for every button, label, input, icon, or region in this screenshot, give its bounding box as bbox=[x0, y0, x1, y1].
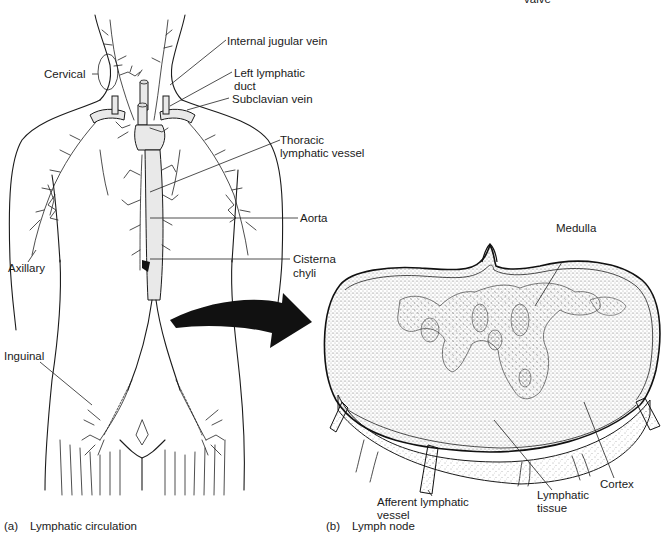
caption-panel-a: (a)Lymphatic circulation bbox=[4, 520, 137, 532]
curved-arrow-icon bbox=[170, 293, 312, 348]
label-cortex: Cortex bbox=[600, 478, 634, 491]
label-thoracic-lymphatic-vessel-line1: Thoracic bbox=[280, 134, 324, 147]
caption-panel-b: (b)Lymph node bbox=[326, 520, 415, 532]
label-afferent-lymphatic-vessel-line1: Afferent lymphatic bbox=[377, 496, 469, 509]
label-lymphatic-tissue-line2: tissue bbox=[537, 502, 567, 515]
cutoff-label-valve: valve bbox=[524, 0, 551, 6]
aorta-and-heart bbox=[128, 80, 180, 390]
label-lymphatic-tissue-line1: Lymphatic bbox=[537, 489, 589, 502]
caption-panel-a-text: Lymphatic circulation bbox=[30, 520, 137, 532]
label-cisterna-chyli-line2: chyli bbox=[293, 267, 316, 280]
label-aorta: Aorta bbox=[300, 212, 328, 225]
label-cervical: Cervical bbox=[44, 68, 86, 81]
caption-panel-a-tag: (a) bbox=[4, 520, 30, 532]
caption-panel-b-tag: (b) bbox=[326, 520, 352, 532]
caption-panel-b-text: Lymph node bbox=[352, 520, 415, 532]
label-left-lymphatic-duct-line1: Left lymphatic bbox=[234, 67, 305, 80]
diagram-canvas bbox=[0, 0, 666, 534]
label-inguinal: Inguinal bbox=[4, 350, 44, 363]
lymph-node bbox=[324, 244, 660, 494]
label-medulla: Medulla bbox=[556, 222, 596, 235]
label-left-lymphatic-duct-line2: duct bbox=[234, 80, 256, 93]
label-axillary: Axillary bbox=[8, 262, 45, 275]
label-thoracic-lymphatic-vessel-line2: lymphatic vessel bbox=[280, 147, 364, 160]
label-cisterna-chyli-line1: Cisterna bbox=[293, 253, 336, 266]
label-internal-jugular-vein: Internal jugular vein bbox=[227, 35, 327, 48]
label-subclavian-vein: Subclavian vein bbox=[232, 93, 313, 106]
